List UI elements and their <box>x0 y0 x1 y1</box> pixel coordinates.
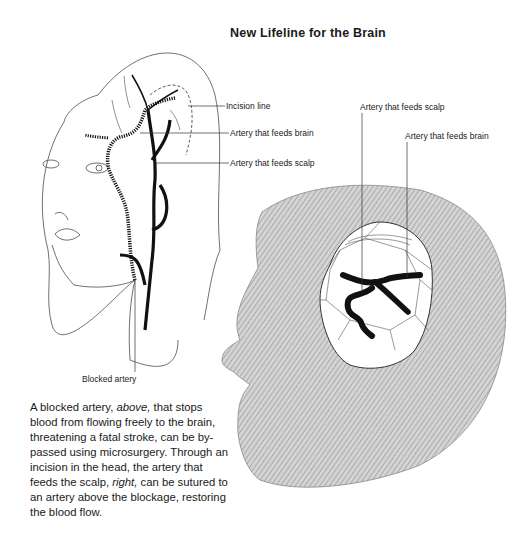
label-left-artery-scalp: Artery that feeds scalp <box>230 158 315 168</box>
label-right-artery-brain: Artery that feeds brain <box>405 131 489 141</box>
caption-part1: A blocked artery, <box>30 401 116 413</box>
caption-above: above, <box>116 401 150 413</box>
profile-head-drawing <box>222 185 506 487</box>
caption: A blocked artery, above, that stops bloo… <box>30 400 230 520</box>
front-arteries <box>85 75 192 330</box>
front-head-drawing <box>42 53 220 366</box>
diagram-title: New Lifeline for the Brain <box>230 26 386 40</box>
caption-right: right, <box>112 476 137 488</box>
label-incision-line: Incision line <box>226 101 270 111</box>
label-blocked-artery: Blocked artery <box>82 374 136 384</box>
caption-part2: that stops blood from flowing freely to … <box>30 401 228 488</box>
label-right-artery-scalp: Artery that feeds scalp <box>360 102 445 112</box>
label-left-artery-brain: Artery that feeds brain <box>230 128 314 138</box>
left-leader-lines <box>135 106 229 372</box>
